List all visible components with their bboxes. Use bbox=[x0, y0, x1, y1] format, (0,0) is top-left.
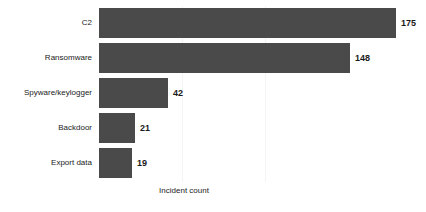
bar-track-export-data: 19 bbox=[99, 146, 147, 180]
bar-value-export-data: 19 bbox=[137, 159, 147, 168]
bar-value-backdoor: 21 bbox=[140, 124, 150, 133]
x-axis-label: Incident count bbox=[99, 186, 269, 195]
bar-backdoor[interactable] bbox=[99, 113, 135, 143]
table-row: Backdoor 21 bbox=[0, 111, 426, 145]
bar-export-data[interactable] bbox=[99, 148, 132, 178]
category-label-spyware-keylogger: Spyware/keylogger bbox=[0, 89, 92, 97]
category-label-backdoor: Backdoor bbox=[0, 124, 92, 132]
bar-ransomware[interactable] bbox=[99, 43, 350, 73]
category-label-c2: C2 bbox=[0, 19, 92, 27]
bar-track-ransomware: 148 bbox=[99, 41, 370, 75]
bar-value-spyware-keylogger: 42 bbox=[173, 89, 183, 98]
table-row: Export data 19 bbox=[0, 146, 426, 180]
bar-value-ransomware: 148 bbox=[355, 54, 370, 63]
bar-c2[interactable] bbox=[99, 8, 396, 38]
table-row: Ransomware 148 bbox=[0, 41, 426, 75]
table-row: Spyware/keylogger 42 bbox=[0, 76, 426, 110]
table-row: C2 175 bbox=[0, 6, 426, 40]
bar-chart: C2 175 Ransomware 148 Spyware/keylogger … bbox=[0, 0, 426, 212]
bar-track-spyware-keylogger: 42 bbox=[99, 76, 183, 110]
bar-spyware-keylogger[interactable] bbox=[99, 78, 168, 108]
category-label-export-data: Export data bbox=[0, 159, 92, 167]
bar-track-c2: 175 bbox=[99, 6, 416, 40]
bar-track-backdoor: 21 bbox=[99, 111, 150, 145]
bar-value-c2: 175 bbox=[401, 19, 416, 28]
category-label-ransomware: Ransomware bbox=[0, 54, 92, 62]
plot-area: C2 175 Ransomware 148 Spyware/keylogger … bbox=[0, 0, 426, 184]
